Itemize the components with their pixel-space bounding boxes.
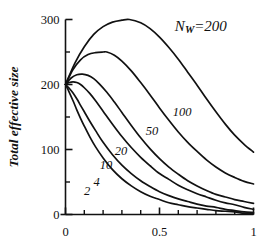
nw-annotation: NW=200: [174, 18, 227, 35]
y-tick-label: 300: [41, 13, 60, 27]
chart-plot-area: 00.510100200300 10050201042 NW=200 Total…: [0, 0, 261, 247]
x-tick-label: 1: [250, 225, 256, 239]
curve-label-50: 50: [146, 124, 159, 138]
curve-label-100: 100: [173, 105, 193, 119]
curve-label-4: 4: [93, 175, 99, 189]
x-tick-label: 0.5: [152, 225, 168, 239]
curve-100: [66, 19, 254, 152]
nw-annotation-value: =200: [194, 18, 227, 34]
y-tick-label: 0: [53, 208, 59, 222]
y-tick-label: 100: [41, 143, 60, 157]
y-axis-label: Total effective size: [6, 66, 21, 167]
x-tick-label: 0: [62, 225, 68, 239]
curve-label-20: 20: [115, 144, 128, 158]
curve-4: [66, 85, 254, 213]
curve-50: [66, 52, 254, 184]
curve-label-10: 10: [100, 158, 113, 172]
y-tick-label: 200: [41, 78, 60, 92]
chart-figure: 00.510100200300 10050201042 NW=200 Total…: [0, 0, 261, 247]
y-axis-label-text: Total effective size: [6, 66, 21, 167]
curve-10: [66, 82, 254, 209]
annotations-group: NW=200: [174, 18, 227, 35]
curve-2: [66, 85, 254, 214]
curve-label-2: 2: [84, 184, 90, 198]
